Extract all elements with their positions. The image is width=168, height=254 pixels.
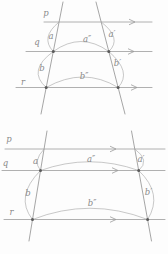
intersection-point [45,86,48,89]
line-label-q: q [3,158,9,168]
intersection-point [146,218,149,221]
line-label-p: p [43,8,49,18]
segment-arc [33,208,148,219]
line-label-r: r [9,207,14,217]
intersection-point [39,169,42,172]
line-label-p: p [6,134,12,144]
intersection-point [31,218,34,221]
arc-label: b′ [145,187,152,197]
intersection-point [137,169,140,172]
arc-label: a″ [83,34,92,44]
figure-svg: pqraa′a″bb′b″pqraa′a″bb′b″ [0,0,168,254]
intersection-point [117,86,120,89]
line-label-q: q [34,37,40,47]
arc-label: b″ [88,198,97,208]
segment-arc [53,42,109,52]
bottom-transversal-diagram: pqraa′a″bb′b″ [2,131,165,241]
arc-label: a [33,156,38,166]
arc-label: a′ [109,29,116,39]
transversal-line-1 [41,2,63,114]
arc-label: a″ [87,154,96,164]
transversal-line-1 [29,131,47,241]
intersection-point [107,50,110,53]
arc-label: a [48,31,53,41]
arc-label: b′ [114,58,121,68]
top-transversal-diagram: pqraa′a″bb′b″ [16,2,152,114]
arc-label: b [25,188,30,198]
intersection-point [52,50,55,53]
arc-label: b [39,63,44,73]
figure-page: pqraa′a″bb′b″pqraa′a″bb′b″ [0,0,168,254]
line-label-r: r [21,77,26,87]
arc-label: b″ [80,71,89,81]
segment-arc [109,52,124,88]
arc-label: a′ [138,154,145,164]
